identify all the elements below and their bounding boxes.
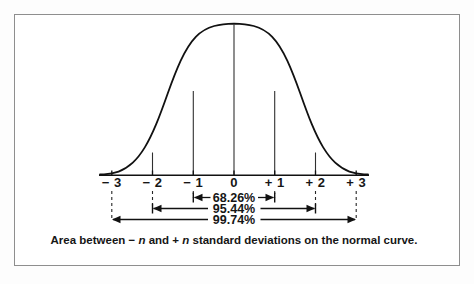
caption-n-first: n: [138, 234, 145, 246]
axis-tick-label-zero: 0: [230, 175, 238, 190]
normal-curve-diagram: − 3 − 2 − 1 0 + 1 + 2 + 3 68.26%: [0, 0, 474, 284]
caption-n-second: n: [182, 234, 189, 246]
axis-tick-label-plus-1: + 1: [265, 175, 285, 190]
axis-tick-label-minus-1: − 1: [183, 175, 203, 190]
caption-minus-sign: −: [129, 234, 139, 246]
arrowhead-99-right: [348, 216, 357, 223]
arrowhead-95-left: [153, 205, 162, 212]
arrowhead-99-left: [112, 216, 121, 223]
figure-caption: Area between − n and + n standard deviat…: [51, 234, 418, 246]
axis-tick-label-plus-2: + 2: [306, 175, 326, 190]
caption-prefix: Area between: [51, 234, 129, 246]
arrowhead-95-right: [307, 205, 316, 212]
arrowhead-68-left: [194, 194, 203, 201]
annotation-row-99: 99.74%: [112, 213, 356, 227]
figure-root: − 3 − 2 − 1 0 + 1 + 2 + 3 68.26%: [0, 0, 474, 284]
caption-middle: and: [146, 234, 173, 246]
axis-tick-label-minus-3: − 3: [102, 175, 122, 190]
caption-plus-sign: +: [172, 234, 182, 246]
annotation-label-99: 99.74%: [213, 213, 255, 227]
caption-suffix: standard deviations on the normal curve.: [189, 234, 417, 246]
arrowhead-68-right: [266, 194, 275, 201]
axis-tick-label-plus-3: + 3: [346, 175, 366, 190]
axis-tick-label-minus-2: − 2: [143, 175, 163, 190]
